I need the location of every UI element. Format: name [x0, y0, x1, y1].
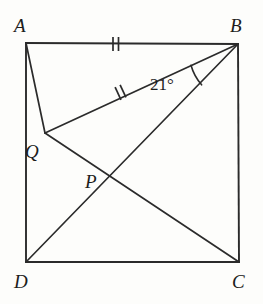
segment-bc: [238, 44, 239, 262]
tick-qb-2: [120, 85, 126, 98]
segment-qb: [45, 44, 238, 133]
segment-qc: [45, 133, 239, 262]
vertex-label-d: D: [14, 272, 28, 291]
geometry-figure: A B C D Q P 21°: [0, 0, 263, 304]
vertex-label-q: Q: [25, 142, 39, 161]
vertex-label-b: B: [230, 16, 242, 35]
segment-db: [26, 44, 238, 262]
vertex-label-p: P: [85, 172, 97, 191]
interior-segments: [26, 43, 239, 262]
angle-measure-label: 21°: [150, 76, 174, 93]
vertex-label-c: C: [232, 272, 245, 291]
segment-ab: [26, 43, 238, 44]
tick-qb-1: [115, 87, 121, 100]
segment-aq: [26, 43, 45, 133]
vertex-label-a: A: [14, 16, 26, 35]
tick-marks-qb: [115, 85, 126, 100]
angle-arc-qbd: [191, 65, 202, 85]
geometry-canvas: [0, 0, 263, 304]
